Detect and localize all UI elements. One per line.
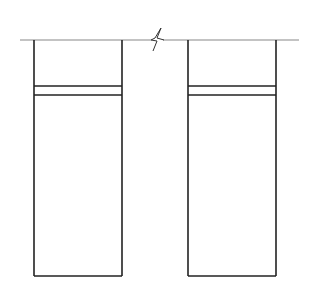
- diagram-canvas: [0, 0, 313, 292]
- right-element: [188, 40, 276, 276]
- break-symbol-icon: [151, 28, 164, 51]
- left-element: [34, 40, 122, 276]
